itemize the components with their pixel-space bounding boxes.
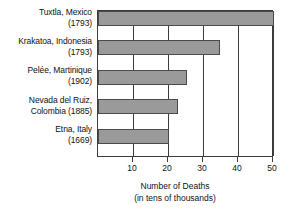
category-label-line2: (1902) <box>0 76 92 87</box>
x-tick-label: 50 <box>259 163 285 173</box>
category-label: Nevada del Ruiz,Colombia (1885) <box>0 95 92 117</box>
bar <box>98 99 178 114</box>
x-axis-title-line2: (in tens of thousands) <box>60 192 290 204</box>
category-axis-labels: Tuxtla, Mexico(1793)Krakatoa, Indonesia(… <box>0 9 95 157</box>
category-label-line2: (1793) <box>0 47 92 58</box>
x-tick-label: 20 <box>154 163 180 173</box>
category-label-line1: Nevada del Ruiz, <box>29 95 92 105</box>
category-label-line1: Etna, Italy <box>55 124 92 134</box>
category-label: Krakatoa, Indonesia(1793) <box>0 36 92 58</box>
category-label-line2: (1669) <box>0 135 92 146</box>
x-tick-mark <box>167 157 168 162</box>
category-label-line2: (1793) <box>0 18 92 29</box>
x-axis-title-line1: Number of Deaths <box>141 181 210 191</box>
category-label: Pelée, Martinique(1902) <box>0 65 92 87</box>
x-tick-mark <box>132 157 133 162</box>
x-tick-mark <box>272 157 273 162</box>
gridline <box>238 11 239 156</box>
x-tick-mark <box>237 157 238 162</box>
bar <box>98 70 187 85</box>
x-tick-label: 10 <box>119 163 145 173</box>
bar <box>98 129 169 144</box>
category-label: Tuxtla, Mexico(1793) <box>0 7 92 29</box>
category-label-line2: Colombia (1885) <box>0 106 92 117</box>
bar <box>98 40 220 55</box>
x-axis-title: Number of Deaths (in tens of thousands) <box>60 180 290 204</box>
category-label: Etna, Italy(1669) <box>0 124 92 146</box>
plot-area <box>97 10 273 157</box>
category-label-line1: Krakatoa, Indonesia <box>18 36 92 46</box>
category-label-line1: Tuxtla, Mexico <box>39 7 92 17</box>
x-tick-label: 40 <box>224 163 250 173</box>
gridline <box>273 11 274 156</box>
x-tick-label: 30 <box>189 163 215 173</box>
gridline <box>203 11 204 156</box>
bar <box>98 11 274 26</box>
category-label-line1: Pelée, Martinique <box>28 65 92 75</box>
x-tick-mark <box>202 157 203 162</box>
volcano-deaths-bar-chart: Tuxtla, Mexico(1793)Krakatoa, Indonesia(… <box>0 0 295 213</box>
